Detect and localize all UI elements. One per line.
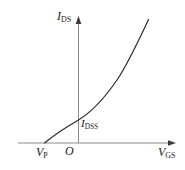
figure-container: IDS VGS IDSS VP O <box>0 0 185 170</box>
y-axis-label: IDS <box>57 10 71 22</box>
x-axis-arrowhead <box>168 140 176 146</box>
vp-annotation-label: VP <box>36 146 48 158</box>
idss-annotation-label: IDSS <box>81 118 98 129</box>
x-axis-label: VGS <box>158 146 175 158</box>
origin-label: O <box>65 145 74 157</box>
y-axis-arrowhead <box>76 16 82 24</box>
